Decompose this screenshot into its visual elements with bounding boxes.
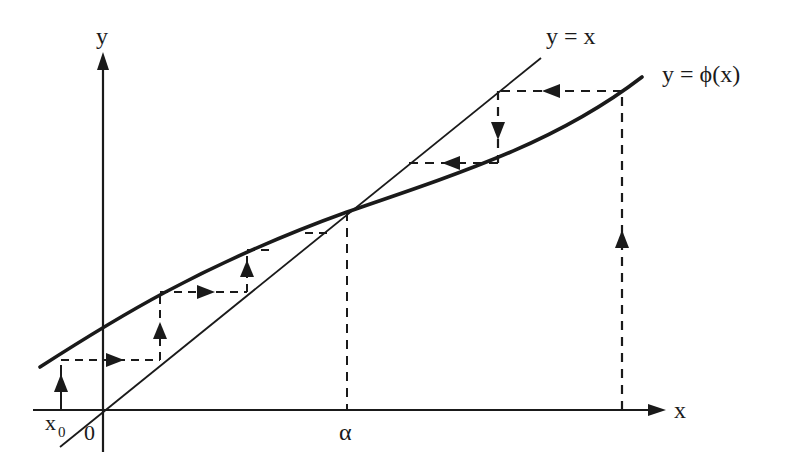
- arrow-down-icon: [491, 122, 505, 140]
- arrow-left-icon: [442, 156, 460, 170]
- start-point-label: x 0: [45, 410, 66, 440]
- start-point-subscript: 0: [58, 424, 66, 440]
- arrow-up-icon: [240, 260, 254, 277]
- identity-line: [60, 58, 541, 447]
- identity-line-label: y = x: [546, 23, 596, 49]
- arrow-up-icon: [54, 374, 68, 392]
- right-cobweb: [403, 91, 622, 410]
- cobweb-diagram: y x 0 y = x y = ϕ(x) α x 0: [0, 0, 785, 471]
- arrow-right-icon: [106, 353, 124, 367]
- fixed-point-label: α: [339, 419, 352, 445]
- left-cobweb-arrows: [54, 260, 254, 392]
- x-axis: [33, 404, 666, 416]
- origin-label: 0: [84, 420, 95, 445]
- arrow-up-icon: [153, 322, 167, 339]
- x-axis-label: x: [674, 397, 686, 423]
- arrow-right-icon: [197, 285, 215, 299]
- x-axis-arrow-icon: [648, 404, 666, 416]
- y-axis: [97, 52, 109, 452]
- phi-curve-label: y = ϕ(x): [662, 61, 740, 87]
- arrow-left-icon: [542, 84, 560, 98]
- y-axis-arrow-icon: [97, 52, 109, 70]
- left-cobweb: [61, 233, 330, 410]
- right-cobweb-arrows: [442, 84, 629, 248]
- y-axis-label: y: [96, 23, 108, 49]
- arrow-up-icon: [615, 230, 629, 248]
- start-point-symbol: x: [45, 410, 56, 435]
- phi-curve: [40, 77, 642, 367]
